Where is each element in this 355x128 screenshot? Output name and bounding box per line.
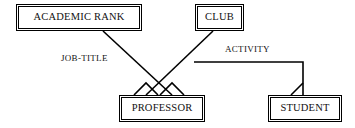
entity-label-academic-rank: ACADEMIC RANK xyxy=(34,12,125,23)
entity-label-student: STUDENT xyxy=(280,103,329,114)
crow-foot-professor-job-title xyxy=(160,83,184,95)
entity-club[interactable]: CLUB xyxy=(195,4,244,31)
er-diagram: ACADEMIC RANK CLUB PROFESSOR STUDENT JOB… xyxy=(0,0,355,128)
relationship-label-job-title: JOB-TITLE xyxy=(60,54,109,63)
edge-activity xyxy=(194,62,303,95)
edge-job-title xyxy=(103,31,172,95)
entity-professor[interactable]: PROFESSOR xyxy=(119,95,205,122)
crow-foot-professor-activity xyxy=(134,83,158,95)
edge-club-professor xyxy=(146,31,213,95)
crow-foot-student-activity xyxy=(291,83,303,95)
entity-label-professor: PROFESSOR xyxy=(132,103,193,114)
entity-student[interactable]: STUDENT xyxy=(268,95,342,122)
entity-academic-rank[interactable]: ACADEMIC RANK xyxy=(16,4,142,31)
entity-label-club: CLUB xyxy=(205,12,234,23)
relationship-label-activity: ACTIVITY xyxy=(224,45,271,54)
